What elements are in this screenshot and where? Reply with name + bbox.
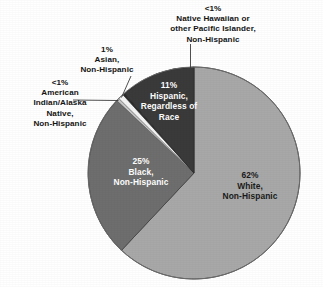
- slice-label-black: 25% Black, Non-Hispanic: [96, 156, 186, 188]
- slice-callout-asian: 1% Asian, Non-Hispanic: [58, 45, 156, 76]
- pie-chart: <1% Native Hawaiian or other Pacific Isl…: [0, 0, 323, 287]
- slice-callout-american-indian-alaska-native: <1% American Indian/Alaska Native, Non-H…: [6, 78, 114, 129]
- slice-label-white: 62% White, Non-Hispanic: [204, 170, 296, 202]
- slice-label-hispanic: 11% Hispanic, Regardless of Race: [126, 80, 212, 122]
- slice-callout-native-hawaiian-pacific-islander: <1% Native Hawaiian or other Pacific Isl…: [142, 4, 284, 45]
